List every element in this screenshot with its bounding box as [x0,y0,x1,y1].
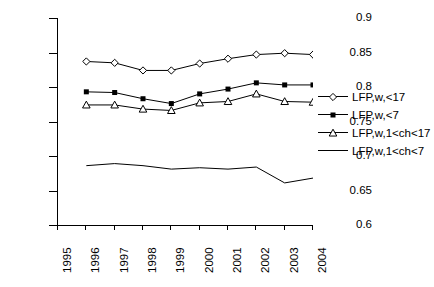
y-tick [49,225,57,226]
data-point [197,91,202,96]
data-point [226,87,231,92]
y-tick [49,191,57,192]
data-point [253,51,260,58]
data-point [281,50,288,57]
data-point [282,82,287,87]
legend-marker-open-triangle-icon [318,127,348,139]
x-tick-label: 1996 [90,247,102,273]
x-tick-label: 2004 [317,247,329,273]
x-tick-label: 1998 [147,247,159,273]
data-point [309,51,313,58]
series-line-3 [86,164,313,183]
y-tick-label: 0.9 [356,12,372,24]
data-point [83,58,90,65]
y-tick [49,122,57,123]
x-tick-label: 2000 [204,247,216,273]
x-tick-label: 1999 [175,247,187,273]
legend-item[interactable]: LFP,w,1<ch<17 [318,124,430,141]
data-point [168,67,175,74]
data-point [311,82,314,87]
legend-marker-filled-square-icon [318,109,348,121]
data-point [139,67,146,74]
y-tick-label: 0.65 [350,185,372,197]
data-point [111,59,118,66]
data-point [224,55,231,62]
data-point [141,96,146,101]
legend-item[interactable]: LFP,w,1<ch<7 [318,142,430,159]
legend-marker-none-icon [318,145,348,157]
x-tick-label: 2001 [232,247,244,273]
y-tick-label: 0.6 [356,219,372,231]
y-tick [49,87,57,88]
legend-label: LFP,w,1<ch<17 [352,127,430,139]
chart-legend: LFP,w,<17LFP,w,<7LFP,w,1<ch<17LFP,w,1<ch… [318,88,430,160]
y-tick-label: 0.85 [350,47,372,59]
legend-item[interactable]: LFP,w,<7 [318,106,430,123]
plot-area [57,18,313,226]
data-point [112,90,117,95]
legend-label: LFP,w,1<ch<7 [352,145,424,157]
data-point [254,80,259,85]
legend-marker-open-diamond-icon [318,91,348,103]
x-tick-label: 1995 [62,247,74,273]
x-tick-label: 2002 [260,247,272,273]
chart-figure: 0.90.850.80.750.70.650.6 199519961997199… [0,0,434,287]
legend-item[interactable]: LFP,w,<17 [318,88,430,105]
x-tick-label: 1997 [119,247,131,273]
y-tick [49,53,57,54]
legend-label: LFP,w,<17 [352,91,405,103]
y-tick [49,156,57,157]
legend-label: LFP,w,<7 [352,109,399,121]
x-tick-label: 2003 [289,247,301,273]
series-canvas [58,18,313,225]
data-point [196,60,203,67]
y-tick [49,18,57,19]
data-point [253,90,261,97]
data-point [169,101,174,106]
data-point [84,89,89,94]
